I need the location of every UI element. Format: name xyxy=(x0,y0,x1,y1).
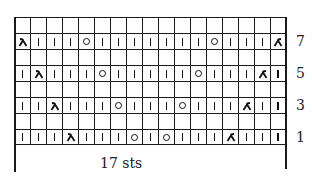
knit-symbol-icon xyxy=(246,133,248,141)
k2tog-decrease-icon xyxy=(18,37,28,47)
stitch-cell xyxy=(30,129,46,145)
stitch-cell xyxy=(14,81,30,97)
stitch-cell xyxy=(110,17,126,33)
stitch-cell xyxy=(78,81,94,97)
stitch-cell xyxy=(126,33,142,49)
ssk-decrease-icon xyxy=(226,132,236,142)
stitch-cell xyxy=(110,113,126,129)
stitch-cell xyxy=(222,65,238,81)
stitch-cell xyxy=(158,49,174,65)
stitch-cell xyxy=(174,129,190,145)
stitch-cell xyxy=(190,65,206,81)
knit-symbol-icon xyxy=(54,70,56,78)
chart-row-5 xyxy=(14,65,286,81)
knit-symbol-icon xyxy=(230,102,232,110)
k2tog-decrease-icon xyxy=(66,132,76,142)
stitch-cell xyxy=(206,65,222,81)
stitch-cell xyxy=(142,17,158,33)
stitch-cell xyxy=(270,129,286,145)
knit-symbol-icon xyxy=(22,70,24,78)
stitch-cell xyxy=(142,97,158,113)
knit-symbol-icon xyxy=(214,70,216,78)
stitch-cell xyxy=(14,129,30,145)
row-number-1: 1 xyxy=(296,129,305,145)
stitch-cell xyxy=(78,17,94,33)
stitch-cell xyxy=(14,113,30,129)
knit-symbol-icon xyxy=(86,133,88,141)
knit-symbol-icon xyxy=(102,102,104,110)
stitch-cell xyxy=(222,129,238,145)
knit-symbol-icon xyxy=(134,70,136,78)
stitch-cell xyxy=(126,65,142,81)
stitch-cell xyxy=(158,113,174,129)
stitch-cell xyxy=(174,65,190,81)
stitch-cell xyxy=(254,129,270,145)
stitch-cell xyxy=(206,129,222,145)
knit-symbol-icon xyxy=(198,133,200,141)
stitch-count-label: 17 sts xyxy=(100,155,142,171)
stitch-cell xyxy=(238,49,254,65)
knit-symbol-icon xyxy=(134,38,136,46)
stitch-cell xyxy=(142,33,158,49)
stitch-cell xyxy=(254,97,270,113)
knit-symbol-icon xyxy=(54,133,56,141)
chart-row-1 xyxy=(14,129,286,145)
knit-symbol-icon xyxy=(262,133,264,141)
stitch-cell xyxy=(158,33,174,49)
knit-symbol-icon xyxy=(118,70,120,78)
yarn-over-icon xyxy=(211,38,218,45)
stitch-cell xyxy=(254,81,270,97)
stitch-cell xyxy=(46,129,62,145)
knitting-chart-grid xyxy=(14,17,286,145)
stitch-cell xyxy=(222,33,238,49)
stitch-cell xyxy=(30,17,46,33)
knit-symbol-icon xyxy=(230,70,232,78)
stitch-cell xyxy=(94,49,110,65)
knit-symbol-icon xyxy=(182,70,184,78)
stitch-cell xyxy=(126,81,142,97)
yarn-over-icon xyxy=(195,70,202,77)
stitch-cell xyxy=(126,113,142,129)
knit-symbol-icon xyxy=(38,102,40,110)
ssk-decrease-icon xyxy=(242,101,252,111)
knit-symbol-icon xyxy=(38,133,40,141)
stitch-cell xyxy=(78,113,94,129)
stitch-cell xyxy=(62,97,78,113)
row-number-7: 7 xyxy=(296,33,305,49)
stitch-cell xyxy=(270,49,286,65)
stitch-cell xyxy=(158,17,174,33)
knit-symbol-icon xyxy=(70,38,72,46)
stitch-cell xyxy=(206,17,222,33)
yarn-over-icon xyxy=(115,102,122,109)
stitch-cell xyxy=(110,81,126,97)
stitch-cell xyxy=(14,17,30,33)
stitch-cell xyxy=(254,49,270,65)
stitch-cell xyxy=(206,81,222,97)
knit-symbol-icon xyxy=(134,102,136,110)
stitch-cell xyxy=(254,65,270,81)
knit-symbol-icon xyxy=(22,133,24,141)
knit-symbol-icon xyxy=(214,102,216,110)
stitch-cell xyxy=(46,65,62,81)
k2tog-decrease-icon xyxy=(34,69,44,79)
yarn-over-icon xyxy=(83,38,90,45)
stitch-cell xyxy=(190,49,206,65)
chart-row-3 xyxy=(14,97,286,113)
stitch-cell xyxy=(62,81,78,97)
stitch-cell xyxy=(14,97,30,113)
stitch-cell xyxy=(78,33,94,49)
stitch-cell xyxy=(174,33,190,49)
stitch-cell xyxy=(238,97,254,113)
knit-symbol-icon xyxy=(198,38,200,46)
stitch-cell xyxy=(94,65,110,81)
knit-symbol-icon xyxy=(182,38,184,46)
stitch-cell xyxy=(14,65,30,81)
stitch-cell xyxy=(254,113,270,129)
stitch-cell xyxy=(222,17,238,33)
stitch-cell xyxy=(206,49,222,65)
knit-symbol-icon xyxy=(22,102,24,110)
stitch-cell xyxy=(158,81,174,97)
stitch-cell xyxy=(110,33,126,49)
knit-symbol-icon xyxy=(246,38,248,46)
stitch-cell xyxy=(30,65,46,81)
